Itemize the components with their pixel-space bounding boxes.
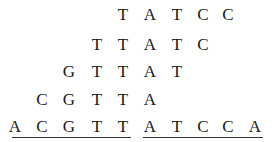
nucleotide-letter: G <box>59 90 79 110</box>
nucleotide-letter: A <box>245 117 265 137</box>
nucleotide-letter: T <box>113 117 133 137</box>
nucleotide-letter: A <box>140 62 160 82</box>
segment-underline <box>143 137 263 138</box>
nucleotide-letter: T <box>87 117 107 137</box>
segment-underline <box>12 137 131 138</box>
nucleotide-letter: A <box>140 35 160 55</box>
nucleotide-letter: T <box>167 62 187 82</box>
nucleotide-letter: T <box>113 5 133 25</box>
nucleotide-letter: G <box>59 62 79 82</box>
nucleotide-letter: T <box>87 35 107 55</box>
nucleotide-letter: C <box>32 90 52 110</box>
nucleotide-letter: C <box>218 5 238 25</box>
nucleotide-letter: A <box>140 90 160 110</box>
nucleotide-letter: T <box>113 62 133 82</box>
nucleotide-letter: T <box>113 35 133 55</box>
nucleotide-letter: C <box>193 117 213 137</box>
nucleotide-letter: C <box>193 35 213 55</box>
nucleotide-letter: C <box>193 5 213 25</box>
nucleotide-letter: C <box>218 117 238 137</box>
nucleotide-letter: G <box>59 117 79 137</box>
nucleotide-letter: T <box>167 117 187 137</box>
nucleotide-letter: A <box>140 5 160 25</box>
nucleotide-letter: A <box>140 117 160 137</box>
nucleotide-letter: T <box>87 90 107 110</box>
nucleotide-letter: T <box>167 35 187 55</box>
nucleotide-letter: C <box>32 117 52 137</box>
nucleotide-letter: A <box>5 117 25 137</box>
nucleotide-letter: T <box>167 5 187 25</box>
nucleotide-letter: T <box>113 90 133 110</box>
nucleotide-letter: T <box>87 62 107 82</box>
